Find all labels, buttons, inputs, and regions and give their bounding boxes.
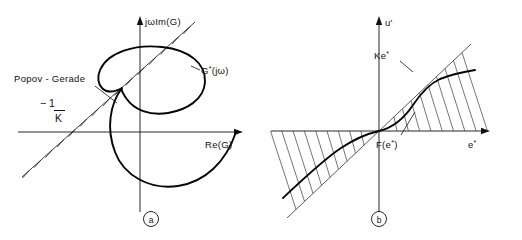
locus-label-text: G	[201, 65, 209, 76]
locus-label: G*(jω)	[201, 65, 229, 77]
locus-label-group: G*(jω)	[191, 65, 229, 77]
sector-bound-label-group: Ke*	[374, 50, 413, 73]
vertical-axis-arrowhead-a	[137, 16, 143, 25]
sector-hatching-upper	[394, 53, 488, 131]
vertical-axis-b	[376, 16, 382, 212]
intercept-denominator: K	[55, 112, 62, 124]
intercept-numerator: − 1	[40, 97, 55, 109]
panel-b-sector-plot: Ke* F(e*) e* u' b	[261, 0, 522, 240]
vertical-axis-a	[137, 16, 143, 212]
intercept-label-group: − 1 K	[40, 97, 65, 124]
sector-bound-label: Ke*	[374, 50, 389, 62]
figure-root: Popov - Gerade − 1 K G*(jω) Re(G) jωIm(G…	[0, 0, 522, 240]
panel-caption-a: a	[144, 212, 159, 227]
vertical-axis-label-b: u'	[385, 17, 393, 28]
vertical-axis-label-a: jωIm(G)	[144, 16, 181, 27]
vertical-axis-arrowhead-b	[376, 16, 382, 25]
panel-a-popov-plot: Popov - Gerade − 1 K G*(jω) Re(G) jωIm(G…	[0, 0, 261, 240]
caption-label-b: b	[377, 215, 382, 225]
nonlinearity-label: F(e*)	[376, 139, 398, 151]
popov-line-label: Popov - Gerade	[14, 73, 85, 84]
panel-caption-b: b	[372, 212, 387, 227]
caption-label-a: a	[149, 215, 154, 225]
horizontal-axis-a	[18, 129, 243, 135]
horizontal-axis-label-a: Re(G)	[205, 139, 232, 150]
horizontal-axis-arrowhead-b	[481, 128, 490, 134]
horizontal-axis-label-b: e*	[468, 139, 477, 151]
